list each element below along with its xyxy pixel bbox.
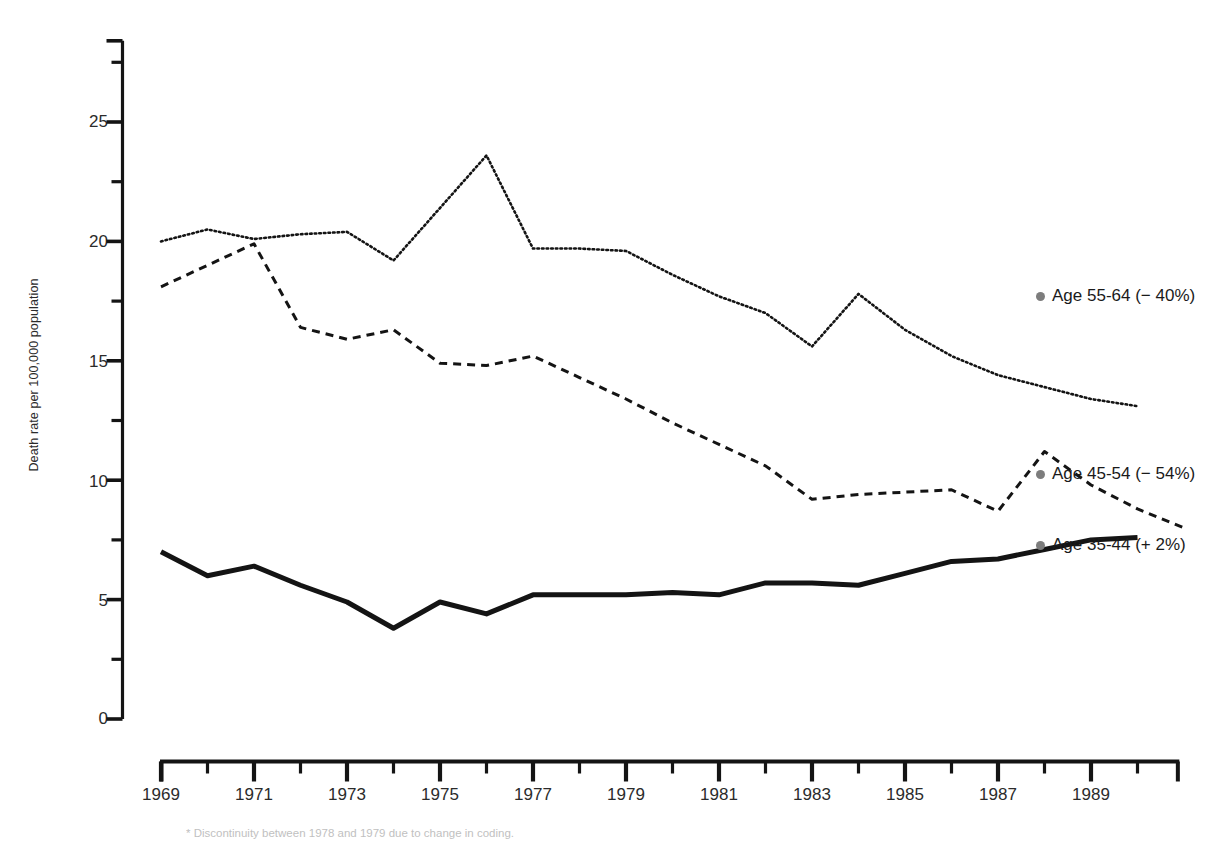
chart-root: Death rate per 100,000 population 25 20 … bbox=[0, 0, 1209, 843]
legend-dot-icon-45-54 bbox=[1036, 470, 1045, 479]
series-line-age-45-54 bbox=[161, 244, 1184, 528]
footnote-text: * Discontinuity between 1978 and 1979 du… bbox=[186, 827, 514, 839]
legend-item-age-55-64[interactable]: Age 55-64 (− 40%) bbox=[1036, 286, 1195, 306]
series-line-age-35-44 bbox=[161, 538, 1138, 629]
legend-label-45-54: Age 45-54 (− 54%) bbox=[1052, 464, 1195, 484]
series-line-age-55-64 bbox=[161, 155, 1138, 406]
legend-label-35-44: Age 35-44 (+ 2%) bbox=[1052, 535, 1186, 555]
legend-label-55-64: Age 55-64 (− 40%) bbox=[1052, 286, 1195, 306]
legend-dot-icon-55-64 bbox=[1036, 292, 1045, 301]
legend-item-age-35-44[interactable]: Age 35-44 (+ 2%) bbox=[1036, 535, 1186, 555]
legend-dot-icon-35-44 bbox=[1036, 541, 1045, 550]
legend-item-age-45-54[interactable]: Age 45-54 (− 54%) bbox=[1036, 464, 1195, 484]
plot-area bbox=[0, 0, 1209, 843]
